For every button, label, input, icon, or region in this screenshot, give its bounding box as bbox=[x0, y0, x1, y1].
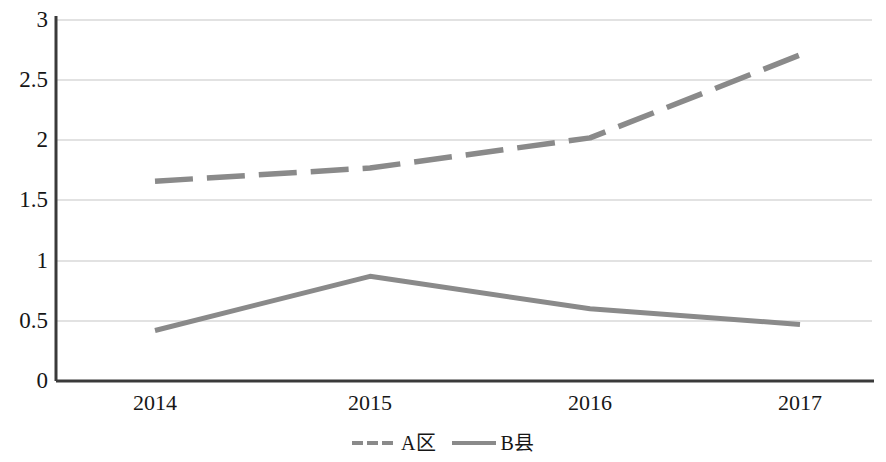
line-chart: 3 2.5 2 1.5 1 0.5 0 2014 2015 2016 2017 … bbox=[0, 0, 886, 462]
legend-label-a: A区 bbox=[401, 433, 435, 453]
y-tick-1: 1 bbox=[6, 249, 48, 272]
legend-item-a[interactable]: A区 bbox=[352, 433, 435, 453]
series-line-a bbox=[155, 55, 800, 181]
chart-legend: A区 B县 bbox=[0, 433, 886, 453]
legend-label-b: B县 bbox=[501, 433, 534, 453]
y-tick-3: 3 bbox=[6, 8, 48, 31]
legend-swatch-a-icon bbox=[352, 441, 396, 445]
y-tick-2.5: 2.5 bbox=[6, 68, 48, 91]
legend-item-b[interactable]: B县 bbox=[452, 433, 534, 453]
gridlines bbox=[56, 20, 872, 321]
y-tick-0: 0 bbox=[6, 369, 48, 392]
y-axis-tick-labels: 3 2.5 2 1.5 1 0.5 0 bbox=[0, 0, 48, 462]
legend-swatch-b-icon bbox=[452, 441, 496, 445]
x-tick-2016: 2016 bbox=[530, 392, 650, 414]
series-line-b bbox=[155, 276, 800, 330]
x-tick-2014: 2014 bbox=[95, 392, 215, 414]
y-tick-2: 2 bbox=[6, 128, 48, 151]
y-tick-0.5: 0.5 bbox=[6, 309, 48, 332]
x-tick-2017: 2017 bbox=[740, 392, 860, 414]
x-tick-2015: 2015 bbox=[310, 392, 430, 414]
y-tick-1.5: 1.5 bbox=[6, 188, 48, 211]
